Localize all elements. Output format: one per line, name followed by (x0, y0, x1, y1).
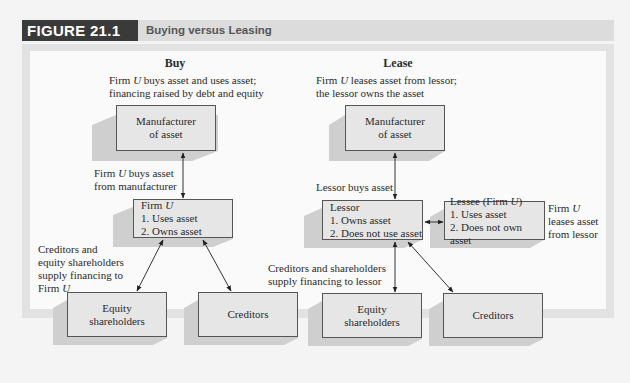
buy-firm-equity-arrow (137, 240, 163, 291)
buy-firm-creditors-arrow (203, 240, 231, 291)
lessor-creditors-arrow (408, 242, 453, 292)
connector-arrows (0, 0, 630, 383)
